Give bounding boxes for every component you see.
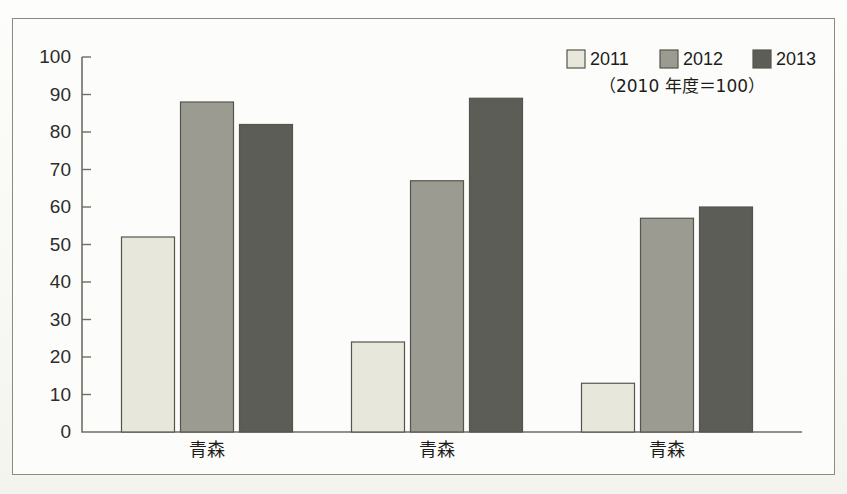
chart-frame-border: [12, 18, 835, 475]
chart-page: 01020304050607080901002011 青森: 522012 青森…: [0, 0, 847, 494]
